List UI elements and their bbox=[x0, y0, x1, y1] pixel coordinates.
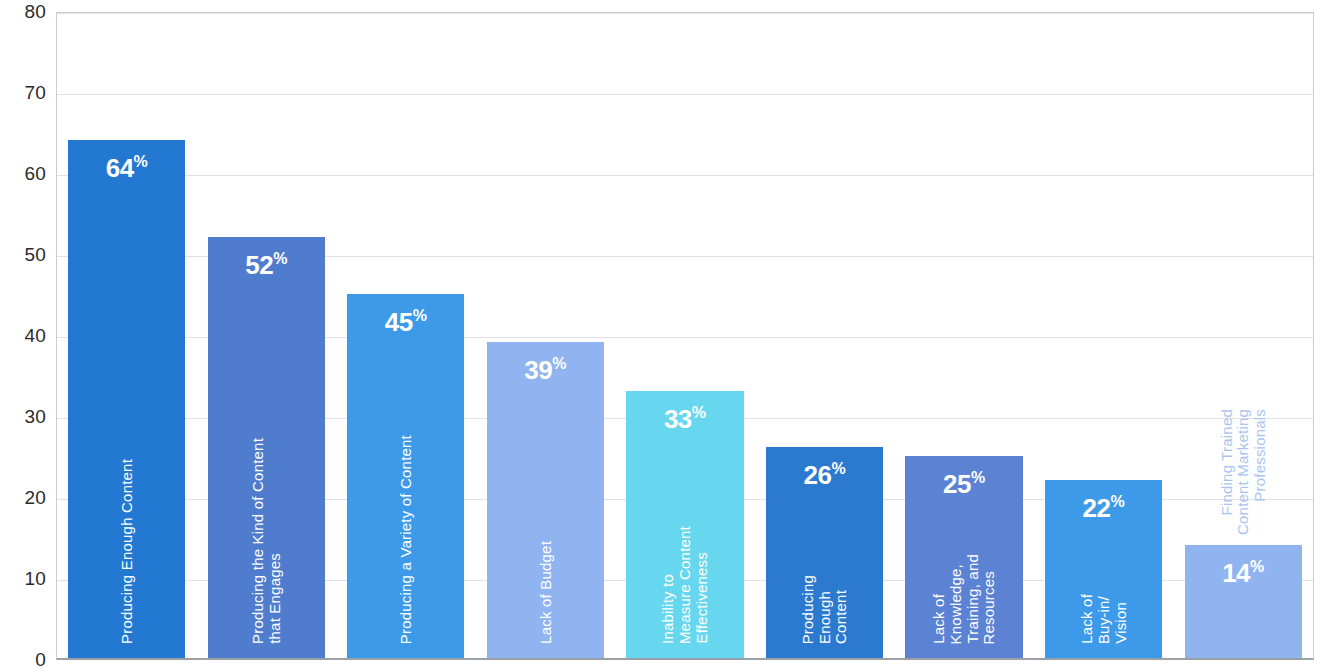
y-axis-tick-label: 40 bbox=[24, 325, 46, 347]
bar[interactable]: 26%ProducingEnoughContent bbox=[766, 447, 883, 658]
y-axis-tick-label: 50 bbox=[24, 244, 46, 266]
y-axis-tick-label: 20 bbox=[24, 487, 46, 509]
bar-value-label: 39% bbox=[487, 356, 604, 383]
bar-category-label: Lack of Budget bbox=[487, 541, 604, 644]
bar-value-percent-sign: % bbox=[413, 307, 427, 324]
bar-slot: 64%Producing Enough Content bbox=[57, 13, 197, 658]
bar-value-label: 14% bbox=[1185, 559, 1302, 586]
bar-category-label-line: Content bbox=[833, 590, 849, 644]
bar-value-percent-sign: % bbox=[552, 355, 566, 372]
bar-category-label-line: Finding Trained bbox=[1219, 409, 1235, 515]
bar-category-label-line: Producing bbox=[800, 575, 816, 644]
bar-category-label-line: Buy-in/ bbox=[1096, 596, 1112, 644]
bar-category-label-line: Knowledge, bbox=[948, 564, 964, 644]
bar-slot: 39%Lack of Budget bbox=[476, 13, 616, 658]
bar-value-number: 33 bbox=[664, 403, 692, 433]
bar-series: 64%Producing Enough Content52%Producing … bbox=[57, 13, 1313, 658]
bar[interactable]: 14% bbox=[1185, 545, 1302, 658]
bar-category-label-line: that Engages bbox=[267, 553, 283, 644]
bar-category-label: Producing a Variety of Content bbox=[347, 435, 464, 644]
bar[interactable]: 64%Producing Enough Content bbox=[68, 140, 185, 658]
bar-category-label-line: Training, and bbox=[965, 554, 981, 644]
bar-category-label-line: Lack of Budget bbox=[538, 541, 554, 644]
bar-category-label: Finding TrainedContent MarketingProfessi… bbox=[1185, 409, 1302, 535]
bar-value-number: 39 bbox=[524, 355, 552, 385]
bar-value-percent-sign: % bbox=[831, 460, 845, 477]
y-axis: 80706050403020100 bbox=[0, 0, 56, 672]
y-axis-tick-label: 30 bbox=[24, 406, 46, 428]
bar-category-label-line: Producing a Variety of Content bbox=[398, 435, 414, 644]
bar-value-label: 22% bbox=[1045, 494, 1162, 521]
bar[interactable]: 52%Producing the Kind of Contentthat Eng… bbox=[208, 237, 325, 658]
bar-category-label-line: Resources bbox=[981, 571, 997, 645]
bar-value-label: 52% bbox=[208, 251, 325, 278]
bar-value-percent-sign: % bbox=[1250, 558, 1264, 575]
bar-category-label-line: Effectiveness bbox=[694, 552, 710, 644]
bar[interactable]: 45%Producing a Variety of Content bbox=[347, 294, 464, 659]
bar-chart: 80706050403020100 64%Producing Enough Co… bbox=[0, 0, 1330, 672]
bar-category-label-line: Producing the Kind of Content bbox=[250, 438, 266, 644]
bar[interactable]: 39%Lack of Budget bbox=[487, 342, 604, 658]
bar-value-label: 64% bbox=[68, 154, 185, 181]
bar-value-percent-sign: % bbox=[692, 404, 706, 421]
bar-category-label-line: Lack of bbox=[931, 594, 947, 644]
bar-category-label-line: Professionals bbox=[1252, 409, 1268, 502]
bar-category-label: Lack ofBuy-in/Vision bbox=[1045, 594, 1162, 644]
bar-category-label: Inability toMeasure ContentEffectiveness bbox=[626, 526, 743, 644]
bar-value-number: 52 bbox=[245, 249, 273, 279]
bar-category-label-line: Inability to bbox=[660, 574, 676, 644]
bar-value-number: 25 bbox=[943, 468, 971, 498]
y-axis-tick-label: 70 bbox=[24, 82, 46, 104]
bar-category-label-line: Producing Enough Content bbox=[119, 459, 135, 644]
bar-category-label: ProducingEnoughContent bbox=[766, 575, 883, 644]
bar-value-percent-sign: % bbox=[971, 469, 985, 486]
y-axis-tick-label: 80 bbox=[24, 1, 46, 23]
bar-value-number: 22 bbox=[1083, 492, 1111, 522]
bar[interactable]: 25%Lack ofKnowledge,Training, andResourc… bbox=[905, 456, 1022, 659]
bar-slot: 52%Producing the Kind of Contentthat Eng… bbox=[197, 13, 337, 658]
bar-slot: 22%Lack ofBuy-in/Vision bbox=[1034, 13, 1174, 658]
bar-slot: 26%ProducingEnoughContent bbox=[755, 13, 895, 658]
bar[interactable]: 33%Inability toMeasure ContentEffectiven… bbox=[626, 391, 743, 658]
bar-category-label-line: Lack of bbox=[1079, 594, 1095, 644]
bar-slot: 25%Lack ofKnowledge,Training, andResourc… bbox=[894, 13, 1034, 658]
bar-value-number: 45 bbox=[385, 306, 413, 336]
bar[interactable]: 22%Lack ofBuy-in/Vision bbox=[1045, 480, 1162, 658]
bar-slot: Finding TrainedContent MarketingProfessi… bbox=[1173, 13, 1313, 658]
bar-value-percent-sign: % bbox=[273, 250, 287, 267]
bar-value-number: 26 bbox=[803, 460, 831, 490]
bar-value-label: 26% bbox=[766, 461, 883, 488]
y-axis-tick-label: 10 bbox=[24, 568, 46, 590]
bar-value-label: 33% bbox=[626, 405, 743, 432]
bar-value-label: 45% bbox=[347, 308, 464, 335]
bar-slot: 33%Inability toMeasure ContentEffectiven… bbox=[615, 13, 755, 658]
bar-category-label: Producing Enough Content bbox=[68, 459, 185, 644]
bar-value-label: 25% bbox=[905, 470, 1022, 497]
plot-area: 64%Producing Enough Content52%Producing … bbox=[56, 12, 1314, 660]
bar-category-label-line: Content Marketing bbox=[1235, 409, 1251, 535]
bar-slot: 45%Producing a Variety of Content bbox=[336, 13, 476, 658]
bar-category-label-line: Measure Content bbox=[677, 526, 693, 644]
y-axis-tick-label: 60 bbox=[24, 163, 46, 185]
y-axis-tick-label: 0 bbox=[35, 649, 46, 671]
bar-value-number: 64 bbox=[106, 152, 134, 182]
bar-value-percent-sign: % bbox=[1110, 493, 1124, 510]
bar-category-label-line: Vision bbox=[1113, 602, 1129, 644]
bar-category-label: Lack ofKnowledge,Training, andResources bbox=[905, 554, 1022, 644]
bar-value-percent-sign: % bbox=[134, 153, 148, 170]
bar-category-label-line: Enough bbox=[817, 591, 833, 644]
bar-value-number: 14 bbox=[1222, 557, 1250, 587]
bar-category-label: Producing the Kind of Contentthat Engage… bbox=[208, 438, 325, 644]
